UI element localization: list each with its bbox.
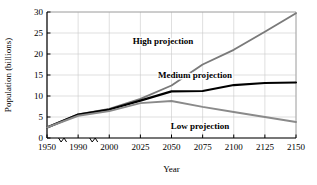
x-tick-label: 2150: [287, 142, 306, 152]
chart-canvas: 0510152025301950199020002025205020752100…: [0, 0, 317, 185]
x-tick-label: 1990: [69, 142, 88, 152]
y-tick-label: 10: [34, 91, 44, 101]
x-axis-break-mark: [90, 138, 98, 142]
y-tick-label: 30: [34, 7, 44, 17]
y-tick-label: 15: [34, 70, 44, 80]
x-tick-label: 2025: [131, 142, 150, 152]
x-tick-label: 2000: [100, 142, 119, 152]
population-projection-chart: 0510152025301950199020002025205020752100…: [0, 0, 317, 185]
x-axis-break-mark: [59, 138, 67, 142]
series-annotation: Medium projection: [158, 70, 232, 80]
series-annotation: High projection: [133, 36, 194, 46]
series-annotation: Low projection: [171, 121, 230, 131]
x-tick-label: 2100: [225, 142, 244, 152]
x-tick-label: 2050: [163, 142, 182, 152]
x-tick-label: 2125: [256, 142, 275, 152]
y-tick-label: 20: [34, 49, 44, 59]
x-tick-label: 2075: [194, 142, 213, 152]
x-axis-title: Year: [163, 164, 180, 174]
x-tick-label: 1950: [38, 142, 57, 152]
y-tick-label: 25: [34, 28, 44, 38]
y-tick-label: 5: [39, 112, 44, 122]
y-axis-title: Population (billions): [3, 38, 13, 112]
